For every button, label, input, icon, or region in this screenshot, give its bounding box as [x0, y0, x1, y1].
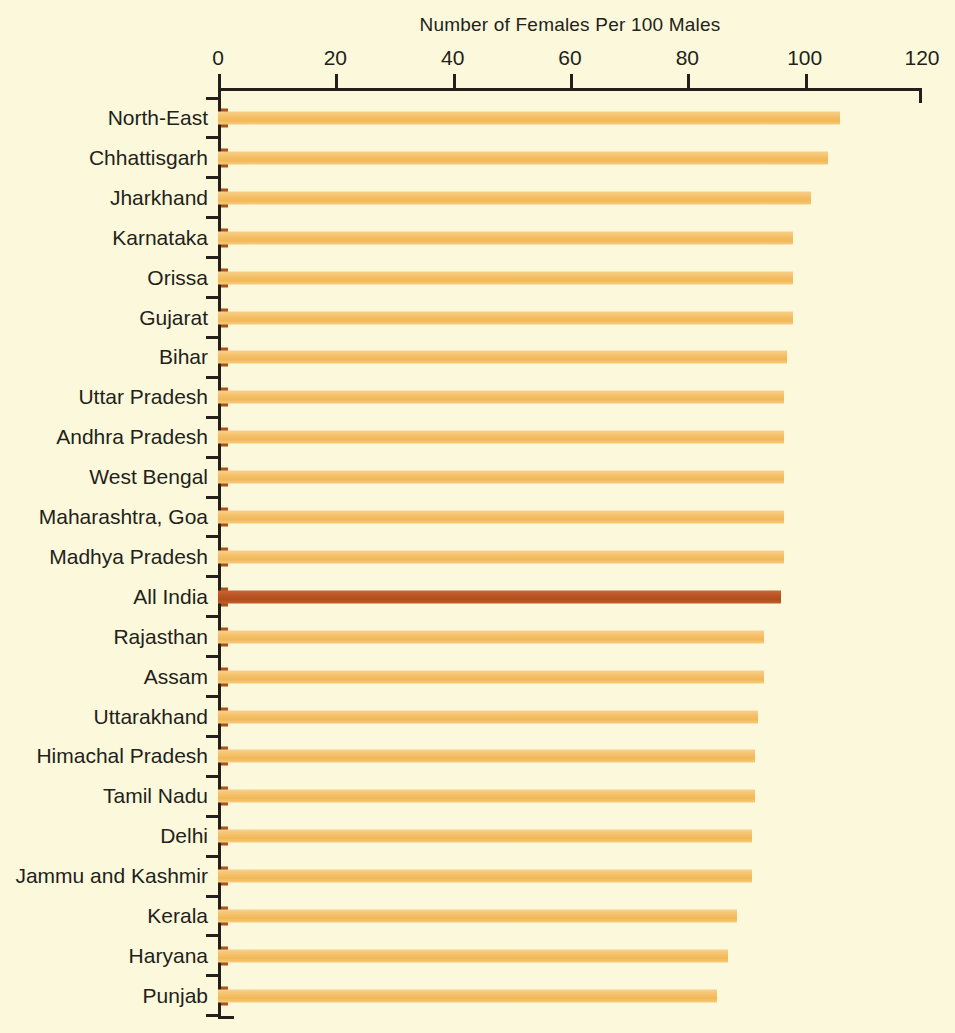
category-label-gujarat: Gujarat	[139, 306, 208, 330]
y-axis-bottom-tick	[218, 1016, 234, 1019]
category-label-delhi: Delhi	[160, 824, 208, 848]
y-axis-tick-mark	[206, 855, 219, 858]
category-label-haryana: Haryana	[129, 944, 208, 968]
x-axis-tick-label: 80	[676, 46, 699, 70]
bar-chart: Number of Females Per 100 Males 02040608…	[0, 0, 955, 1033]
bar-punjab	[218, 989, 717, 1002]
x-axis-tick-label: 60	[558, 46, 581, 70]
category-label-rajasthan: Rajasthan	[113, 625, 208, 649]
x-axis-tick-mark	[335, 74, 338, 89]
y-axis-tick-mark	[206, 376, 219, 379]
y-axis-tick-mark	[206, 416, 219, 419]
y-axis-tick-mark	[206, 535, 219, 538]
x-axis-tick-mark	[218, 74, 221, 89]
category-label-west-bengal: West Bengal	[89, 465, 208, 489]
x-axis-tick-label: 20	[324, 46, 347, 70]
y-axis-tick-mark	[206, 1014, 219, 1017]
bar-tamil-nadu	[218, 790, 755, 803]
bar-madhya-pradesh	[218, 550, 784, 563]
bar-haryana	[218, 949, 728, 962]
x-axis-tick-label: 100	[787, 46, 822, 70]
y-axis-tick-mark	[206, 695, 219, 698]
bar-west-bengal	[218, 471, 784, 484]
category-label-maharashtra-goa: Maharashtra, Goa	[39, 505, 208, 529]
chart-title: Number of Females Per 100 Males	[218, 14, 922, 36]
category-label-jharkhand: Jharkhand	[110, 186, 208, 210]
y-axis-tick-mark	[206, 615, 219, 618]
y-axis-tick-mark	[206, 256, 219, 259]
y-axis-tick-mark	[206, 296, 219, 299]
bar-andhra-pradesh	[218, 431, 784, 444]
y-axis-tick-mark	[206, 496, 219, 499]
y-axis-tick-mark	[206, 775, 219, 778]
category-label-himachal-pradesh: Himachal Pradesh	[36, 744, 208, 768]
bar-uttarakhand	[218, 710, 758, 723]
y-axis-tick-mark	[206, 815, 219, 818]
y-axis-tick-mark	[206, 895, 219, 898]
y-axis-tick-mark	[206, 336, 219, 339]
bar-himachal-pradesh	[218, 750, 755, 763]
y-axis-tick-mark	[206, 575, 219, 578]
category-label-bihar: Bihar	[159, 345, 208, 369]
category-label-chhattisgarh: Chhattisgarh	[89, 146, 208, 170]
category-label-all-india: All India	[133, 585, 208, 609]
bar-north-east	[218, 112, 840, 125]
x-axis-tick-mark	[919, 88, 922, 103]
bar-rajasthan	[218, 630, 764, 643]
y-axis-tick-mark	[206, 176, 219, 179]
y-axis-tick-mark	[206, 735, 219, 738]
bar-delhi	[218, 830, 752, 843]
bar-jammu-and-kashmir	[218, 870, 752, 883]
y-axis-tick-mark	[206, 934, 219, 937]
bar-all-india	[218, 590, 781, 603]
y-axis-tick-mark	[206, 655, 219, 658]
category-label-north-east: North-East	[108, 106, 208, 130]
x-axis-tick-mark	[570, 74, 573, 89]
category-label-andhra-pradesh: Andhra Pradesh	[56, 425, 208, 449]
category-label-karnataka: Karnataka	[112, 226, 208, 250]
y-axis-tick-mark	[206, 97, 219, 100]
y-axis-tick-mark	[206, 136, 219, 139]
category-label-uttar-pradesh: Uttar Pradesh	[78, 385, 208, 409]
category-label-jammu-and-kashmir: Jammu and Kashmir	[15, 864, 208, 888]
bar-kerala	[218, 910, 737, 923]
bar-uttar-pradesh	[218, 391, 784, 404]
bar-maharashtra-goa	[218, 511, 784, 524]
category-label-assam: Assam	[144, 665, 208, 689]
category-label-uttarakhand: Uttarakhand	[94, 705, 208, 729]
category-label-madhya-pradesh: Madhya Pradesh	[49, 545, 208, 569]
bar-assam	[218, 670, 764, 683]
x-axis-tick-mark	[687, 74, 690, 89]
x-axis-tick-label: 120	[904, 46, 939, 70]
y-axis-tick-mark	[206, 456, 219, 459]
category-label-tamil-nadu: Tamil Nadu	[103, 784, 208, 808]
bar-orissa	[218, 271, 793, 284]
category-label-kerala: Kerala	[147, 904, 208, 928]
category-label-punjab: Punjab	[143, 984, 208, 1008]
bar-bihar	[218, 351, 787, 364]
x-axis-tick-mark	[805, 74, 808, 89]
bar-karnataka	[218, 231, 793, 244]
x-axis-tick-label: 0	[212, 46, 224, 70]
x-axis-tick-mark	[453, 74, 456, 89]
bar-jharkhand	[218, 191, 811, 204]
bar-chhattisgarh	[218, 151, 828, 164]
y-axis-tick-mark	[206, 216, 219, 219]
category-label-orissa: Orissa	[147, 266, 208, 290]
y-axis-tick-mark	[206, 974, 219, 977]
bar-gujarat	[218, 311, 793, 324]
x-axis-tick-label: 40	[441, 46, 464, 70]
